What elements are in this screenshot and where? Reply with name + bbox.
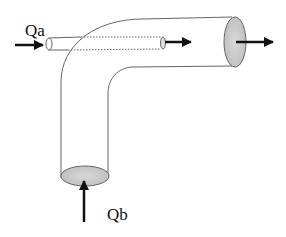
small-pipe: [46, 37, 166, 50]
small-pipe-outlet: [161, 37, 166, 49]
label-qb: Qb: [107, 205, 128, 224]
pipe-bend-diagram: Qa Qb: [0, 0, 286, 237]
outer-wall: [61, 17, 232, 178]
inner-wall: [108, 66, 232, 174]
label-qa: Qa: [25, 21, 45, 40]
small-pipe-inlet: [46, 38, 52, 50]
main-pipe: [61, 17, 232, 178]
